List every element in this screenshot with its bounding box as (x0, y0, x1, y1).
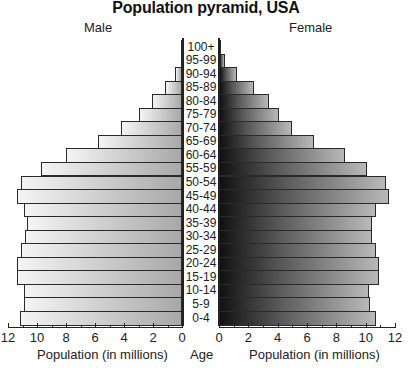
x-tick (322, 325, 323, 328)
age-group-label: 25-29 (183, 244, 219, 257)
age-group-label: 95-99 (183, 54, 219, 67)
age-group-label: 5-9 (183, 298, 219, 311)
bar-male (24, 284, 182, 299)
x-tick (52, 325, 53, 328)
bar-female (219, 94, 269, 109)
age-group-label: 60-64 (183, 149, 219, 162)
x-tick (263, 325, 264, 328)
bar-male (17, 189, 182, 204)
bar-male (27, 216, 182, 231)
bar-female (219, 311, 376, 326)
bar-male (21, 243, 182, 258)
x-tick (234, 325, 235, 328)
bar-female (219, 297, 370, 312)
x-tick-label-male: 2 (141, 330, 165, 345)
bar-male (24, 297, 182, 312)
bar-female (219, 148, 345, 163)
x-tick-label-male: 6 (83, 330, 107, 345)
population-pyramid-plot: 100+95-9990-9485-8980-8475-7970-7465-696… (0, 0, 412, 380)
bar-female (219, 162, 367, 177)
x-tick (182, 323, 183, 328)
age-group-label: 50-54 (183, 176, 219, 189)
bar-female (219, 257, 379, 272)
age-group-label: 55-59 (183, 162, 219, 175)
age-group-label: 0-4 (183, 312, 219, 325)
bar-male (41, 162, 182, 177)
age-group-label: 30-34 (183, 230, 219, 243)
bar-female (219, 189, 389, 204)
x-tick (380, 325, 381, 328)
x-tick-label-female: 6 (295, 330, 319, 345)
x-tick (292, 325, 293, 328)
x-tick (153, 323, 154, 328)
bar-male (175, 67, 182, 82)
bar-male (17, 270, 182, 285)
x-tick (23, 325, 24, 328)
bar-female (219, 243, 376, 258)
x-tick-label-female: 2 (236, 330, 260, 345)
bar-female (219, 54, 225, 69)
bar-female (219, 81, 254, 96)
x-tick-label-female: 0 (207, 330, 231, 345)
x-tick (8, 323, 9, 328)
age-group-label: 10-14 (183, 284, 219, 297)
x-tick (110, 325, 111, 328)
x-tick-label-male: 8 (54, 330, 78, 345)
x-tick (395, 323, 396, 328)
bar-female (219, 176, 386, 191)
bar-female (219, 108, 279, 123)
age-group-label: 15-19 (183, 271, 219, 284)
bar-female (219, 203, 376, 218)
bar-female (219, 230, 372, 245)
bar-male (98, 135, 182, 150)
x-tick-label-female: 8 (324, 330, 348, 345)
age-group-label: 100+ (183, 41, 219, 54)
bar-male (165, 81, 182, 96)
age-group-label: 70-74 (183, 122, 219, 135)
x-tick (66, 323, 67, 328)
x-tick (81, 325, 82, 328)
bar-female (219, 135, 314, 150)
bar-female (219, 67, 237, 82)
bar-male (121, 121, 182, 136)
x-tick (248, 323, 249, 328)
age-group-label: 45-49 (183, 190, 219, 203)
x-tick (351, 325, 352, 328)
x-tick (95, 323, 96, 328)
x-tick (366, 323, 367, 328)
age-group-label: 35-39 (183, 217, 219, 230)
age-group-label: 20-24 (183, 257, 219, 270)
bar-male (66, 148, 182, 163)
x-tick-label-male: 0 (170, 330, 194, 345)
age-group-label: 80-84 (183, 95, 219, 108)
bar-male (25, 230, 182, 245)
x-tick (307, 323, 308, 328)
x-tick-label-male: 4 (112, 330, 136, 345)
male-zero-axis (182, 38, 184, 326)
x-tick-label-female: 4 (266, 330, 290, 345)
bar-male (21, 176, 182, 191)
x-tick (168, 325, 169, 328)
age-group-label: 90-94 (183, 68, 219, 81)
x-tick (278, 323, 279, 328)
bar-female (219, 216, 372, 231)
x-tick-label-female: 12 (383, 330, 407, 345)
x-tick-label-male: 10 (25, 330, 49, 345)
x-tick-label-male: 12 (0, 330, 20, 345)
x-axis-title-female: Population (in millions) (249, 347, 380, 362)
age-axis-title: Age (190, 347, 213, 362)
bar-male (139, 108, 183, 123)
bar-female (219, 284, 369, 299)
x-tick (139, 325, 140, 328)
x-tick (336, 323, 337, 328)
x-tick (37, 323, 38, 328)
bar-male (20, 311, 182, 326)
x-tick (219, 323, 220, 328)
bar-male (152, 94, 182, 109)
x-tick (124, 323, 125, 328)
x-tick-label-female: 10 (354, 330, 378, 345)
age-group-label: 75-79 (183, 108, 219, 121)
bar-female (219, 270, 379, 285)
age-group-label: 65-69 (183, 135, 219, 148)
age-group-label: 40-44 (183, 203, 219, 216)
